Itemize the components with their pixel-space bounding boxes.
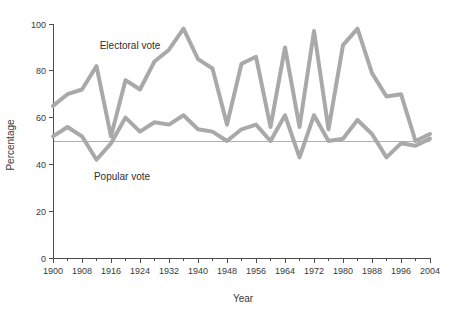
x-tick-label: 1980: [333, 266, 353, 276]
x-tick-label: 1988: [362, 266, 382, 276]
election-votes-line-chart: 020406080100 190019081916192419321940194…: [0, 0, 455, 315]
x-tick-label: 1996: [391, 266, 411, 276]
x-tick-label: 1940: [188, 266, 208, 276]
x-tick-label: 1956: [246, 266, 266, 276]
chart-container: 020406080100 190019081916192419321940194…: [0, 0, 455, 315]
x-tick-label: 1908: [72, 266, 92, 276]
x-tick-label: 1932: [159, 266, 179, 276]
y-tick-label: 60: [36, 113, 46, 123]
y-tick-label: 80: [36, 66, 46, 76]
y-tick-label: 40: [36, 160, 46, 170]
y-axis-title: Percentage: [5, 119, 16, 171]
x-tick-label: 1924: [130, 266, 150, 276]
x-tick-label: 1916: [101, 266, 121, 276]
x-tick-label: 2004: [420, 266, 440, 276]
x-tick-label: 1948: [217, 266, 237, 276]
x-axis-title: Year: [233, 293, 254, 304]
x-tick-label: 1964: [275, 266, 295, 276]
annotation-popular-vote: Popular vote: [94, 171, 151, 182]
y-tick-label: 0: [41, 254, 46, 264]
y-tick-label: 100: [31, 20, 46, 30]
annotation-electoral-vote: Electoral vote: [100, 40, 161, 51]
y-tick-label: 20: [36, 207, 46, 217]
x-tick-label: 1900: [43, 266, 63, 276]
x-tick-label: 1972: [304, 266, 324, 276]
